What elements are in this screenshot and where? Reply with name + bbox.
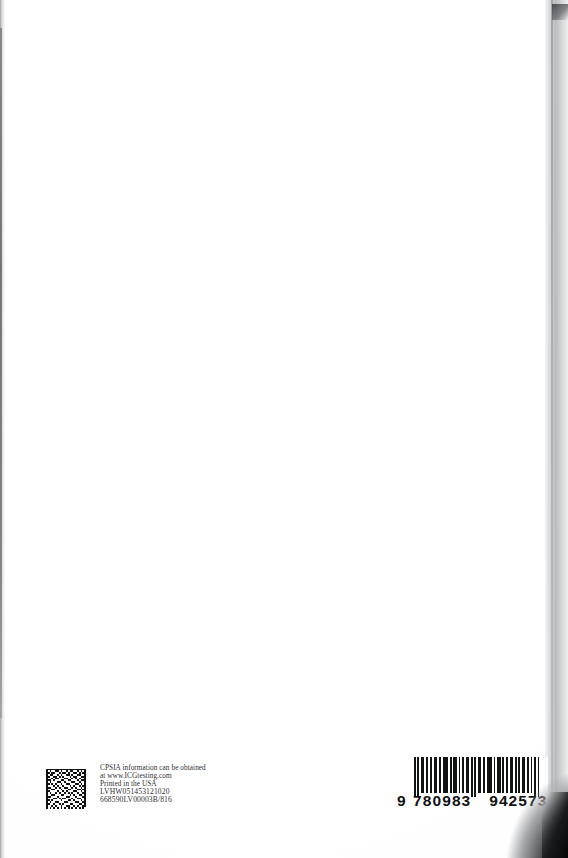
isbn-digit-group-left: 780983 — [413, 792, 471, 810]
data-matrix-code — [46, 768, 86, 809]
print-job-code: 668590LV00003B/816 — [100, 796, 310, 804]
paper-surface — [0, 0, 568, 858]
isbn-lead-digit: 9 — [397, 792, 406, 810]
data-matrix-svg — [46, 768, 86, 809]
left-binding-line — [0, 28, 2, 718]
cpsia-imprint-block: CPSIA information can be obtained at www… — [100, 764, 310, 804]
bottom-right-corner-dark — [542, 792, 568, 858]
top-right-corner-shadow — [552, 4, 568, 20]
book-back-cover-page: CPSIA information can be obtained at www… — [0, 0, 568, 858]
right-scan-edge — [545, 0, 568, 858]
right-page-boundary-line — [551, 0, 553, 790]
